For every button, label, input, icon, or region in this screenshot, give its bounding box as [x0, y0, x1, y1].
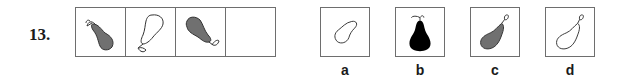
sequence-strip — [75, 7, 276, 57]
option-b-label: b — [395, 62, 445, 78]
black-pear-icon — [396, 8, 444, 56]
option-a-box[interactable] — [320, 7, 370, 57]
option-a-label: a — [320, 62, 370, 78]
grey-pear-icon — [76, 8, 125, 56]
grey-pear-icon — [471, 8, 519, 56]
grey-pear-icon — [176, 8, 225, 56]
option-d-box[interactable] — [545, 7, 595, 57]
outline-pear-icon — [126, 8, 175, 56]
outline-pear-icon — [321, 8, 369, 56]
sequence-cell-1 — [76, 8, 126, 56]
sequence-cell-3 — [176, 8, 226, 56]
sequence-cell-2 — [126, 8, 176, 56]
option-c-box[interactable] — [470, 7, 520, 57]
question-number: 13. — [29, 25, 50, 45]
option-c-label: c — [470, 62, 520, 78]
option-b-box[interactable] — [395, 7, 445, 57]
option-d-label: d — [545, 62, 595, 78]
sequence-cell-4-blank — [226, 8, 275, 56]
outline-pear-icon — [546, 8, 594, 56]
